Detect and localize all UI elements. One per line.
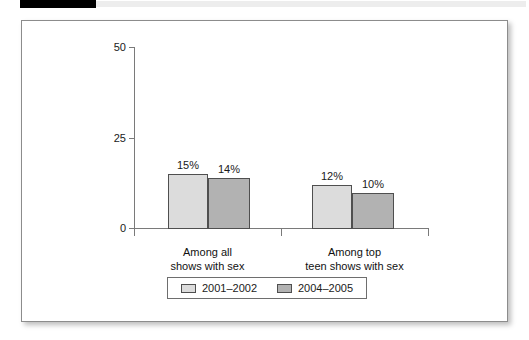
top-black-block	[20, 0, 96, 8]
chart-legend: 2001–2002 2004–2005	[167, 277, 367, 299]
x-tick-middle	[281, 229, 282, 236]
category-label-0: Among all shows with sex	[134, 245, 281, 273]
bar-group1-series0[interactable]: 12%	[312, 185, 352, 229]
legend-swatch-icon-1	[277, 284, 292, 293]
category-label-0-line2: shows with sex	[134, 259, 281, 273]
bar-value-group0-series0: 15%	[177, 160, 199, 171]
bar-group0-series1[interactable]: 14%	[208, 178, 250, 229]
y-axis-label-50: 50	[92, 42, 126, 53]
y-axis-label-25: 25	[92, 133, 126, 144]
category-label-1-line1: Among top	[281, 245, 428, 259]
legend-item-1[interactable]: 2004–2005	[277, 283, 353, 294]
bar-slot-g1s1: 10%	[352, 69, 394, 229]
legend-item-0[interactable]: 2001–2002	[181, 283, 257, 294]
category-label-1: Among top teen shows with sex	[281, 245, 428, 273]
legend-swatch-icon-0	[181, 284, 196, 293]
category-label-1-line2: teen shows with sex	[281, 259, 428, 273]
bar-value-group0-series1: 14%	[218, 164, 240, 175]
bar-value-group1-series1: 10%	[362, 179, 384, 190]
y-tick-50	[129, 47, 135, 48]
legend-label-1: 2004–2005	[298, 283, 353, 294]
category-label-0-line1: Among all	[134, 245, 281, 259]
top-decoration-strip	[0, 0, 529, 9]
bar-slot-g1s0: 12%	[312, 69, 352, 229]
bar-group0-series0[interactable]: 15%	[168, 174, 208, 229]
y-tick-25	[129, 138, 135, 139]
y-axis-label-0: 0	[92, 223, 126, 234]
bar-slot-g0s0: 15%	[168, 69, 208, 229]
x-tick-left	[134, 229, 135, 236]
figure-panel: 50 25 0 15% 14% 12% 10%	[21, 20, 508, 322]
legend-label-0: 2001–2002	[202, 283, 257, 294]
top-gray-rule	[96, 1, 526, 7]
bar-value-group1-series0: 12%	[321, 171, 343, 182]
y-axis-labels: 50 25 0	[90, 21, 126, 261]
bar-group1-series1[interactable]: 10%	[352, 193, 394, 229]
bar-slot-g0s1: 14%	[208, 69, 250, 229]
bar-chart-plot: 50 25 0 15% 14% 12% 10%	[22, 21, 509, 323]
x-tick-right	[428, 229, 429, 236]
